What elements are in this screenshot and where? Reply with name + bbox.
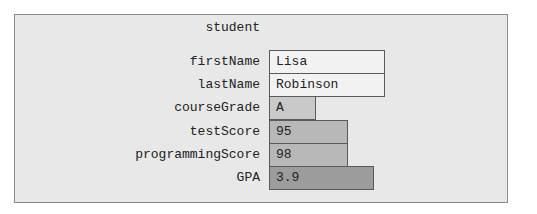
- field-value-programmingscore: 98: [269, 143, 348, 167]
- field-value-gpa: 3.9: [269, 166, 374, 190]
- field-label-lastname: lastName: [14, 73, 260, 96]
- field-value-firstname: Lisa: [269, 50, 385, 74]
- field-label-gpa: GPA: [14, 166, 260, 189]
- field-value-coursegrade: A: [269, 96, 316, 120]
- field-value-lastname: Robinson: [269, 73, 385, 97]
- object-name: student: [14, 20, 260, 35]
- field-label-firstname: firstName: [14, 50, 260, 73]
- field-label-programmingscore: programmingScore: [14, 143, 260, 166]
- field-label-coursegrade: courseGrade: [14, 96, 260, 119]
- field-value-testscore: 95: [269, 120, 348, 144]
- field-label-testscore: testScore: [14, 120, 260, 143]
